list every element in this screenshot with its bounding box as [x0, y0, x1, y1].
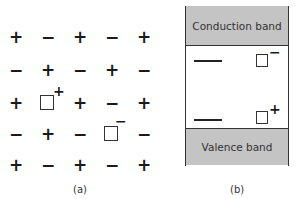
- plus-ion: +: [70, 27, 90, 47]
- vacancy-charge-minus: −: [115, 114, 127, 128]
- valence-band: Valence band: [185, 128, 289, 165]
- plus-ion: +: [38, 124, 58, 144]
- conduction-band: Conduction band: [185, 6, 289, 46]
- plus-ion: +: [6, 155, 26, 175]
- minus-ion: −: [70, 124, 90, 144]
- minus-ion: −: [6, 60, 26, 80]
- minus-ion: −: [102, 93, 122, 113]
- plus-ion: +: [70, 93, 90, 113]
- vacancy-charge-plus: +: [53, 84, 65, 98]
- caption-a: (a): [73, 184, 87, 195]
- minus-ion: −: [134, 60, 154, 80]
- minus-ion: −: [134, 124, 154, 144]
- lower-level-charge: +: [269, 102, 281, 116]
- band-diagram: Conduction band − + Valence band: [185, 4, 290, 166]
- plus-ion: +: [102, 60, 122, 80]
- lower-vacancy-box: [256, 111, 268, 124]
- band-border-left: [185, 6, 186, 166]
- valence-band-label: Valence band: [202, 141, 273, 153]
- band-gap: − +: [185, 46, 289, 128]
- minus-ion: −: [38, 155, 58, 175]
- vacancy-box: [40, 95, 54, 110]
- plus-ion: +: [6, 93, 26, 113]
- minus-ion: −: [6, 124, 26, 144]
- minus-ion: −: [70, 60, 90, 80]
- caption-b: (b): [230, 184, 244, 195]
- minus-ion: −: [102, 155, 122, 175]
- upper-vacancy-box: [256, 54, 268, 67]
- plus-ion: +: [134, 155, 154, 175]
- plus-ion: +: [6, 27, 26, 47]
- ionic-lattice-diagram: + − + − + − + − + − + + + − + − + − − − …: [0, 0, 165, 199]
- upper-trap-level: [194, 60, 222, 62]
- band-border-right: [288, 6, 289, 166]
- plus-ion: +: [70, 155, 90, 175]
- conduction-band-label: Conduction band: [192, 20, 281, 32]
- minus-ion: −: [102, 27, 122, 47]
- plus-ion: +: [134, 27, 154, 47]
- plus-ion: +: [38, 60, 58, 80]
- lower-trap-level: [194, 119, 222, 121]
- plus-ion: +: [134, 93, 154, 113]
- upper-level-charge: −: [269, 45, 281, 59]
- minus-ion: −: [38, 27, 58, 47]
